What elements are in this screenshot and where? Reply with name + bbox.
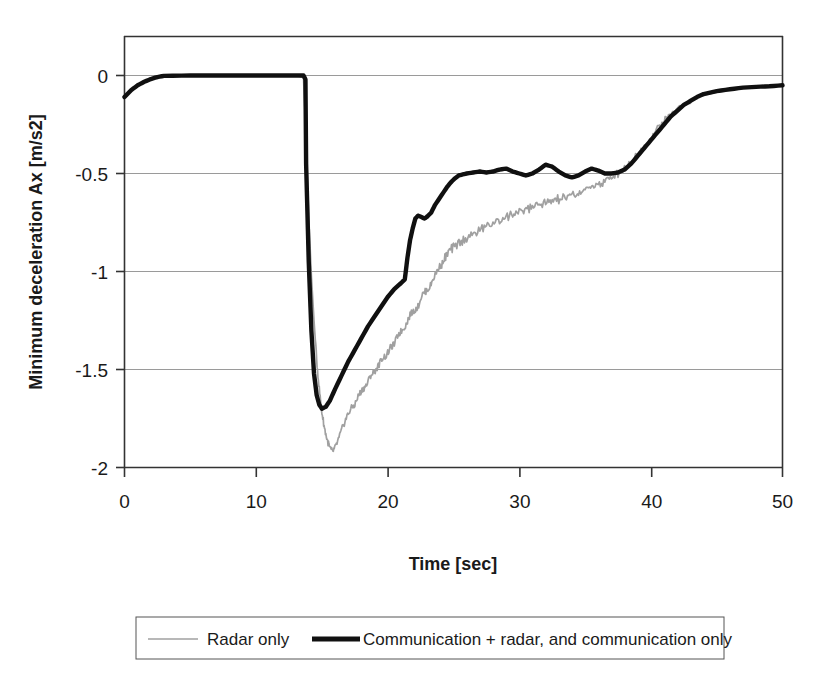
deceleration-line-chart: 0 -0.5 -1 -1.5 -2 0 10 20 30 40 50 Minim… bbox=[0, 0, 828, 686]
y-tick-label-neg2: -2 bbox=[91, 458, 108, 479]
y-tick-label-neg1: -1 bbox=[91, 262, 108, 283]
legend-label-communication: Communication + radar, and communication… bbox=[363, 630, 732, 649]
x-tick-label-10: 10 bbox=[246, 491, 267, 512]
x-tick-label-0: 0 bbox=[119, 491, 130, 512]
y-tick-label-neg1point5: -1.5 bbox=[75, 360, 108, 381]
y-tick-labels: 0 -0.5 -1 -1.5 -2 bbox=[75, 66, 108, 479]
x-tick-label-30: 30 bbox=[509, 491, 530, 512]
x-tick-label-50: 50 bbox=[772, 491, 793, 512]
legend: Radar only Communication + radar, and co… bbox=[136, 617, 732, 659]
x-tick-marks bbox=[125, 468, 783, 477]
y-tick-label-0: 0 bbox=[97, 66, 108, 87]
plot-background bbox=[124, 36, 783, 468]
y-axis-title: Minimum deceleration Ax [m/s2] bbox=[26, 114, 46, 389]
chart-figure: 0 -0.5 -1 -1.5 -2 0 10 20 30 40 50 Minim… bbox=[0, 0, 828, 686]
y-tick-label-neg0point5: -0.5 bbox=[75, 164, 108, 185]
x-tick-label-20: 20 bbox=[378, 491, 399, 512]
x-tick-labels: 0 10 20 30 40 50 bbox=[119, 491, 793, 512]
x-axis-title: Time [sec] bbox=[409, 554, 498, 574]
y-tick-marks bbox=[116, 76, 124, 468]
x-tick-label-40: 40 bbox=[641, 491, 662, 512]
legend-label-radar-only: Radar only bbox=[207, 630, 290, 649]
